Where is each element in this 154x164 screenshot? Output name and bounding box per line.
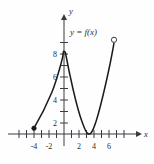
x-axis-label: x	[143, 129, 148, 139]
graph-canvas: -4 -2 2 4 6 2 4 6 8 x y y = f(x)	[0, 0, 154, 164]
x-tick-label: 4	[92, 142, 96, 151]
function-curve	[34, 43, 114, 134]
y-axis-arrow-icon	[61, 14, 67, 20]
x-axis	[8, 131, 142, 137]
closed-endpoint-marker	[32, 126, 36, 130]
x-tick-label: -2	[46, 142, 53, 151]
x-axis-arrow-icon	[136, 131, 142, 137]
y-tick-label: 2	[53, 119, 57, 128]
y-axis	[61, 14, 67, 146]
y-tick-label: 8	[53, 50, 57, 59]
x-tick-label: 2	[77, 142, 81, 151]
y-tick-label: 4	[53, 96, 57, 105]
x-tick-label: -4	[31, 142, 38, 151]
open-endpoint-marker	[111, 37, 116, 42]
function-graph-figure: -4 -2 2 4 6 2 4 6 8 x y y = f(x)	[0, 0, 154, 164]
x-tick-label: 6	[107, 142, 111, 151]
function-label: y = f(x)	[69, 27, 97, 37]
y-axis-label: y	[68, 6, 73, 16]
